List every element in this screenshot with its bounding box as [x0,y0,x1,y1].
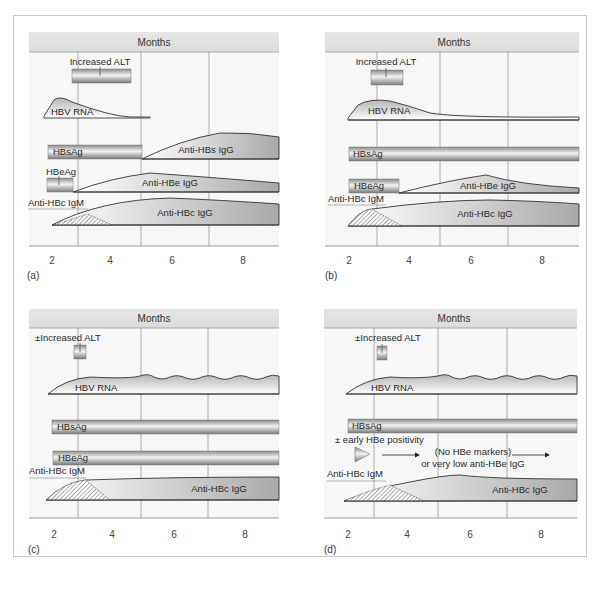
x-tick: 6 [468,255,474,266]
hbsag-label: HBsAg [53,146,83,157]
increased-alt-label: ±Increased ALT [35,332,101,343]
hbv-rna-label: HBV RNA [371,382,414,393]
early-hbe-label: ± early HBe positivity [335,434,424,445]
increased-alt-bar [72,69,131,83]
x-tick: 8 [539,255,545,266]
increased-alt-label: Increased ALT [356,56,417,67]
increased-alt-label: Increased ALT [70,56,131,67]
hbsag-bar [348,419,577,433]
increased-alt-bar [371,70,403,85]
panel-label-a: (a) [27,270,39,281]
anti-hbe-igg-label: Anti-HBe IgG [142,177,198,188]
hbv-rna-label: HBV RNA [51,106,94,117]
hbeag-label: HBeAg [58,452,88,463]
x-tick: 4 [404,529,410,540]
x-tick: 4 [109,529,115,540]
hbsag-label: HBsAg [353,148,383,159]
hbeag-label: HBeAg [46,166,76,177]
anti-hbc-igm-label: Anti-HBc IgM [328,193,384,204]
x-tick: 8 [242,529,248,540]
anti-hbs-igg-label: Anti-HBs IgG [178,144,233,155]
x-tick: 8 [240,255,246,266]
anti-hbc-igg-label: Anti-HBc IgG [492,484,547,495]
hbsag-bar [349,147,579,161]
x-tick: 6 [467,529,473,540]
panel-c: Months ±Increased ALT HBV RNA HBsAg HBeA… [20,297,300,567]
no-hbe-markers-label: (No HBe markers) [435,446,512,457]
anti-hbc-igm-label: Anti-HBc IgM [327,468,383,479]
x-tick: 2 [51,529,57,540]
hbv-rna-label: HBV RNA [75,382,118,393]
anti-hbc-igg-label: Anti-HBc IgG [191,483,246,494]
months-header: Months [438,37,471,48]
anti-hbc-igg-label: Anti-HBc IgG [457,208,512,219]
hbv-rna-label: HBV RNA [368,105,411,116]
anti-hbc-igm-label: Anti-HBc IgM [29,465,85,476]
anti-hbe-igg-label: Anti-HBe IgG [460,180,516,191]
anti-hbc-igm-label: Anti-HBc IgM [28,197,84,208]
panel-label-c: (c) [28,544,40,555]
months-header: Months [138,37,171,48]
hbsag-label: HBsAg [57,421,87,432]
months-header: Months [138,313,171,324]
low-anti-hbe-label: or very low anti-HBe IgG [421,458,524,469]
x-tick: 4 [107,255,113,266]
months-header: Months [438,313,471,324]
panel-a: Months Increased ALT HBV RNA HBsAg Anti-… [20,20,300,290]
anti-hbc-igg-label: Anti-HBc IgG [157,207,212,218]
panel-d: Months ±Increased ALT HBV RNA HBsAg ± ea… [320,297,600,567]
panel-label-d: (d) [324,544,336,555]
panel-label-b: (b) [325,270,337,281]
x-tick: 4 [406,255,412,266]
x-tick: 8 [538,529,544,540]
x-tick: 2 [346,255,352,266]
x-tick: 6 [169,255,175,266]
panel-b: Months Increased ALT HBV RNA HBsAg HBeAg… [320,20,600,290]
increased-alt-label: ±Increased ALT [355,332,421,343]
hbeag-label: HBeAg [354,180,384,191]
hbeag-bar [47,178,73,192]
hbsag-label: HBsAg [352,420,382,431]
x-tick: 2 [49,255,55,266]
x-tick: 6 [171,529,177,540]
x-tick: 2 [345,529,351,540]
